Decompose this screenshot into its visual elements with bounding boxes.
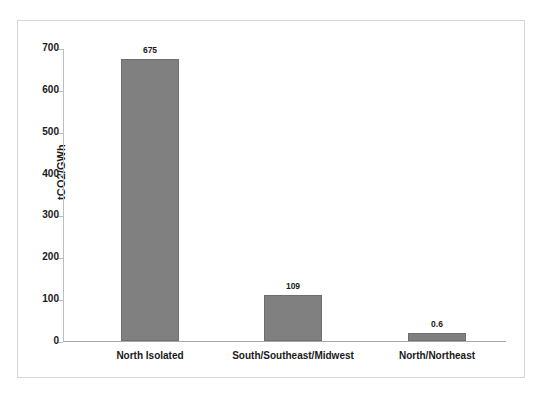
bar-group-north-isolated[interactable]: 675 North Isolated [121, 59, 179, 341]
chart-figure: tCO2/GWh 0 100 200 300 400 500 [17, 20, 525, 378]
y-axis-line [63, 49, 64, 342]
x-category-label: North Isolated [116, 350, 183, 361]
bar-rect[interactable] [121, 59, 179, 341]
bar-group-north-northeast[interactable]: 0.6 North/Northeast [408, 333, 466, 341]
bar-group-south-southeast-midwest[interactable]: 109 South/Southeast/Midwest [264, 295, 322, 341]
bar-value-label: 109 [286, 281, 300, 291]
y-tick-label: 0 [53, 335, 59, 346]
plot-area: 0 100 200 300 400 500 600 700 [63, 29, 508, 342]
y-tick-label: 600 [42, 84, 59, 95]
y-tick-label: 100 [42, 293, 59, 304]
y-tick-label: 500 [42, 126, 59, 137]
x-category-label: South/Southeast/Midwest [232, 350, 354, 361]
bar-rect[interactable] [264, 295, 322, 341]
y-tick-label: 200 [42, 251, 59, 262]
bar-rect[interactable] [408, 333, 466, 341]
x-axis-line [63, 341, 506, 342]
y-tick-label: 700 [42, 42, 59, 53]
x-category-label: North/Northeast [399, 350, 475, 361]
bar-value-label: 675 [143, 45, 157, 55]
bar-value-label: 0.6 [431, 319, 443, 329]
y-tick-label: 300 [42, 209, 59, 220]
y-tick-label: 400 [42, 168, 59, 179]
